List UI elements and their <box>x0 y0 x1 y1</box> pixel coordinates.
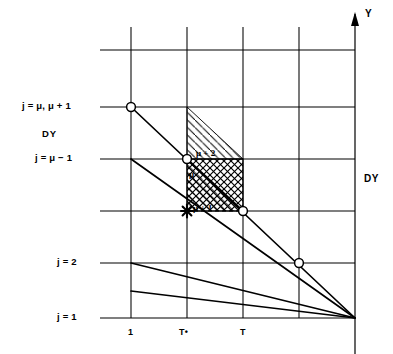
diagram-root: j = μ, μ + 1 j = μ − 1 j = 2 j = 1 DY DY… <box>0 0 393 354</box>
row-label-mu-mu-plus-1: j = μ, μ + 1 <box>22 101 71 111</box>
x-tick-label-t: T <box>240 328 246 337</box>
open-circle-node <box>239 207 248 216</box>
y-axis <box>351 12 359 354</box>
row-label-mu-minus-1: j = μ − 1 <box>35 153 72 163</box>
annotation-mu-plus-2: μ + 2 <box>196 148 215 158</box>
annotation-mu: μ <box>189 169 194 179</box>
x-tick-label-t-star: T• <box>179 328 188 337</box>
annotation-mu-plus-1: μ + 1 <box>193 203 212 213</box>
figure-canvas <box>0 0 393 354</box>
open-circle-node <box>183 155 192 164</box>
row-label-j-1: j = 1 <box>57 312 77 322</box>
open-circle-node <box>295 259 304 268</box>
open-circle-node <box>127 103 136 112</box>
dy-label-left: DY <box>42 129 57 139</box>
row-label-j-2: j = 2 <box>57 257 77 267</box>
dy-label-right: DY <box>364 174 379 184</box>
x-tick-label-1: 1 <box>128 328 133 337</box>
y-axis-label: Y <box>365 9 372 19</box>
star-marker <box>181 205 193 218</box>
